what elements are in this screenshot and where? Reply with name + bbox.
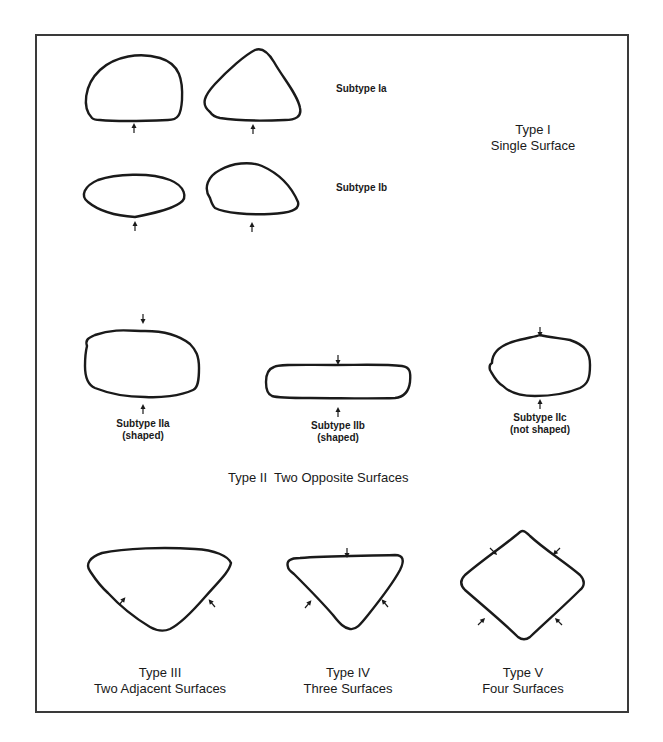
pressure-arrow-icon: [538, 399, 543, 409]
pressure-arrow-icon: [132, 123, 137, 133]
pressure-arrow-icon: [303, 599, 313, 610]
shape-subtype-ia-right: [205, 49, 301, 134]
label-subtype-ib: Subtype Ib: [336, 182, 387, 194]
type-i-subtitle: Single Surface: [478, 138, 588, 154]
label-type-v: Type V Four Surfaces: [468, 665, 578, 696]
subtype-iic-note: (not shaped): [490, 424, 590, 436]
pressure-arrow-icon: [250, 222, 255, 232]
type-v-subtitle: Four Surfaces: [468, 681, 578, 697]
type-iv-title: Type IV: [293, 665, 403, 681]
pressure-arrow-icon: [133, 221, 138, 231]
label-subtype-iia: Subtype IIa (shaped): [98, 418, 188, 442]
label-type-iii: Type III Two Adjacent Surfaces: [80, 665, 240, 696]
type-v-title: Type V: [468, 665, 578, 681]
pressure-arrow-icon: [476, 616, 487, 627]
subtype-iia-name: Subtype IIa: [98, 418, 188, 430]
pressure-arrow-icon: [207, 598, 217, 609]
subtype-iia-note: (shaped): [98, 430, 188, 442]
label-type-ii: Type II Two Opposite Surfaces: [228, 470, 408, 486]
label-subtype-iib: Subtype IIb (shaped): [293, 420, 383, 444]
type-iv-subtitle: Three Surfaces: [293, 681, 403, 697]
subtype-iib-name: Subtype IIb: [293, 420, 383, 432]
shape-subtype-iib: [266, 355, 410, 417]
pressure-arrow-icon: [141, 404, 146, 414]
pressure-arrow-icon: [336, 407, 341, 417]
type-iii-title: Type III: [80, 665, 240, 681]
cross-section-shapes: [0, 0, 663, 742]
pressure-arrow-icon: [251, 124, 256, 134]
shape-subtype-ib-left: [84, 175, 184, 231]
subtype-iic-name: Subtype IIc: [490, 412, 590, 424]
label-type-iv: Type IV Three Surfaces: [293, 665, 403, 696]
label-subtype-iic: Subtype IIc (not shaped): [490, 412, 590, 436]
shape-type-iv: [288, 548, 403, 629]
pressure-arrow-icon: [141, 314, 146, 324]
label-type-i: Type I Single Surface: [478, 122, 588, 153]
label-subtype-ia: Subtype Ia: [336, 83, 387, 95]
shape-subtype-iic: [490, 327, 590, 409]
type-iii-subtitle: Two Adjacent Surfaces: [80, 681, 240, 697]
shape-subtype-ib-right: [207, 163, 298, 232]
type-i-title: Type I: [478, 122, 588, 138]
subtype-iib-note: (shaped): [293, 432, 383, 444]
shape-subtype-iia: [85, 314, 199, 414]
pressure-arrow-icon: [553, 616, 564, 627]
shape-type-iii: [88, 548, 231, 631]
shape-type-v: [461, 531, 584, 639]
pressure-arrow-icon: [336, 355, 341, 365]
shape-subtype-ia-left: [86, 55, 182, 133]
